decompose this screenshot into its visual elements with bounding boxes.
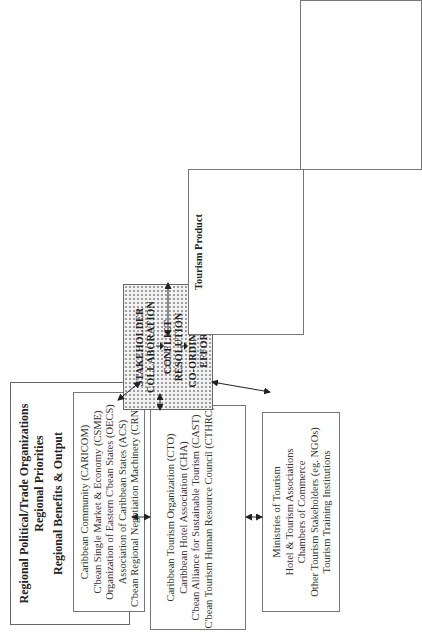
arrow-regional-to-stakeholder [118,382,140,400]
tourism-collaboration-diagram: Regional Political/Trade Organizations R… [0,0,422,632]
connector-arrows [0,0,422,632]
arrow-national-to-stakeholder [212,382,270,392]
